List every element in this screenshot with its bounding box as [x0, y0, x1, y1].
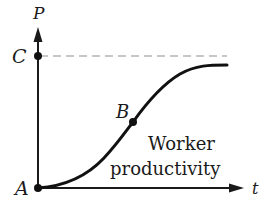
point-c-marker	[34, 52, 42, 60]
point-c-label: C	[12, 45, 27, 67]
point-b-marker	[129, 118, 137, 126]
y-axis-label: P	[32, 3, 45, 23]
point-a-marker	[34, 184, 42, 192]
annotation-line-2: productivity	[110, 158, 221, 179]
x-axis-arrow-icon	[229, 184, 244, 193]
point-b-label: B	[115, 101, 129, 122]
productivity-chart: P t A C B Worker productivity	[0, 0, 275, 212]
annotation-line-1: Worker	[148, 133, 215, 154]
y-axis-arrow-icon	[34, 27, 43, 42]
point-a-label: A	[13, 177, 29, 199]
x-axis-label: t	[252, 179, 259, 198]
